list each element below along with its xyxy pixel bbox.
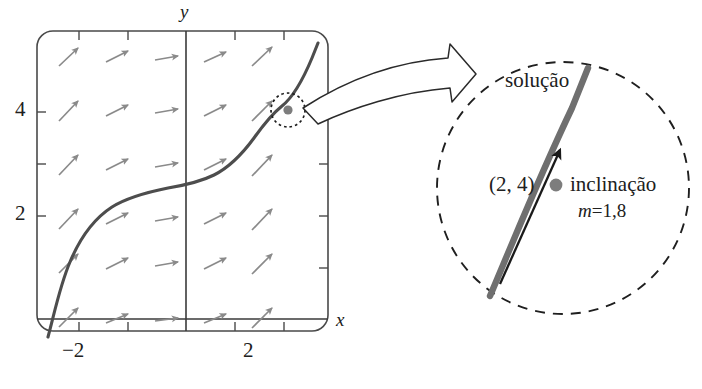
slope-field-panel [37,31,328,337]
x-axis-label: x [336,310,344,329]
magnify-callout-arrow [303,44,476,124]
marked-point-dot [283,105,292,114]
figure-root: y x 4 2 −2 2 solução (2, 4) inclinação m… [0,0,702,389]
y-axis-ticks [37,112,46,216]
y-tick-label-4: 4 [15,99,26,120]
slope-variable-m: m [578,200,592,221]
y-axis-ticks-right [319,112,328,268]
x-tick-label-minus2: −2 [62,340,84,361]
slope-value: m=1,8 [578,201,626,220]
point-coordinate-label: (2, 4) [489,174,535,195]
slope-label: inclinação [570,174,656,195]
detail-point-dot [550,179,563,192]
slope-value-number: =1,8 [592,200,626,221]
solution-curve [48,43,318,337]
solution-label: solução [505,70,569,91]
x-axis-ticks-top [79,31,284,40]
y-axis-label: y [180,2,188,21]
x-tick-label-2: 2 [243,340,254,361]
tangent-slope-arrow [500,150,560,284]
y-tick-label-2: 2 [15,203,26,224]
plot-frame [37,31,328,331]
